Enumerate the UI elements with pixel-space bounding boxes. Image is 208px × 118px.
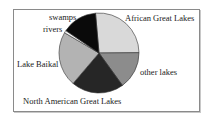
label-african-great-lakes: African Great Lakes xyxy=(125,14,194,23)
label-lake-baikal: Lake Baikal xyxy=(17,60,58,69)
label-north-american-great-lakes: North American Great Lakes xyxy=(23,97,121,106)
label-other-lakes: other lakes xyxy=(140,68,177,77)
label-rivers: rivers xyxy=(43,25,62,34)
label-swamps: swamps xyxy=(49,13,76,22)
